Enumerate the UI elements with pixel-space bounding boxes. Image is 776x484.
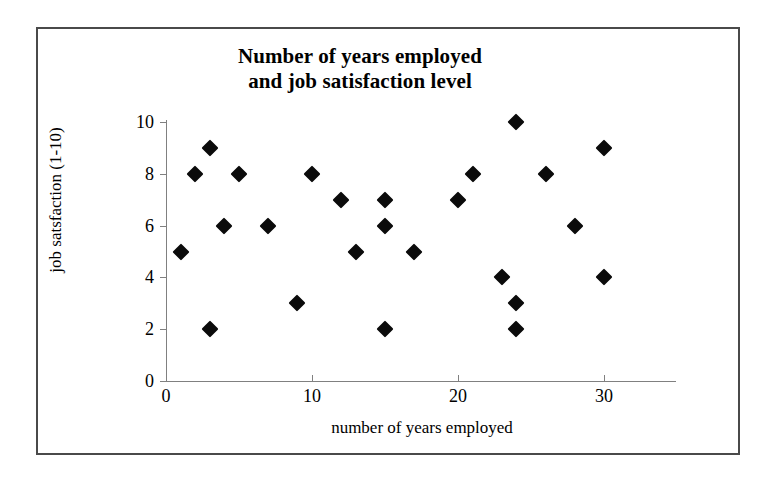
- scatter-chart: Number of years employed and job satisfa…: [0, 0, 776, 484]
- x-tick-label: 0: [143, 386, 189, 406]
- data-point: [508, 321, 525, 338]
- data-point: [201, 139, 218, 156]
- x-axis-line: [166, 381, 676, 382]
- y-tick-label: 6: [120, 217, 154, 235]
- y-axis-line: [166, 120, 167, 382]
- y-tick-mark: [160, 226, 166, 227]
- chart-title-line-2: and job satisfaction level: [130, 69, 590, 94]
- data-point: [493, 269, 510, 286]
- y-tick-mark: [160, 174, 166, 175]
- data-point: [464, 165, 481, 182]
- data-point: [333, 191, 350, 208]
- data-point: [172, 243, 189, 260]
- data-point: [377, 321, 394, 338]
- data-point: [187, 165, 204, 182]
- data-point: [450, 191, 467, 208]
- x-tick-label: 30: [581, 386, 627, 406]
- x-tick-mark: [458, 375, 459, 382]
- x-tick-mark: [166, 375, 167, 382]
- data-point: [596, 269, 613, 286]
- y-tick-label: 4: [120, 268, 154, 286]
- data-point: [566, 217, 583, 234]
- y-tick-mark: [160, 277, 166, 278]
- x-axis-title: number of years employed: [166, 418, 678, 438]
- chart-title: Number of years employed and job satisfa…: [130, 44, 590, 94]
- y-tick-mark: [160, 122, 166, 123]
- data-point: [260, 217, 277, 234]
- data-point: [377, 191, 394, 208]
- x-tick-label: 20: [435, 386, 481, 406]
- y-tick-label: 2: [120, 320, 154, 338]
- y-tick-mark: [160, 329, 166, 330]
- data-point: [508, 295, 525, 312]
- chart-title-line-1: Number of years employed: [130, 44, 590, 69]
- data-point: [289, 295, 306, 312]
- y-axis-title: job satsfaction (1-10): [46, 80, 66, 320]
- data-point: [304, 165, 321, 182]
- data-point: [347, 243, 364, 260]
- x-tick-mark: [604, 375, 605, 382]
- data-point: [216, 217, 233, 234]
- data-point: [406, 243, 423, 260]
- x-tick-label: 10: [289, 386, 335, 406]
- data-point: [377, 217, 394, 234]
- data-point: [537, 165, 554, 182]
- data-point: [596, 139, 613, 156]
- y-tick-label: 10: [120, 113, 154, 131]
- y-tick-label: 8: [120, 165, 154, 183]
- data-point: [201, 321, 218, 338]
- data-point: [231, 165, 248, 182]
- data-point: [508, 114, 525, 131]
- x-tick-mark: [312, 375, 313, 382]
